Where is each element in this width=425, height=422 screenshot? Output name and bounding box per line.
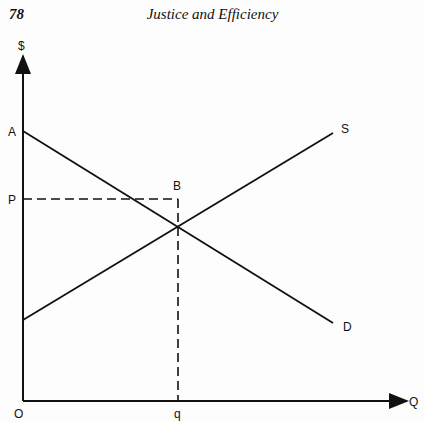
- label-d: D: [343, 320, 352, 334]
- x-axis-label: Q: [409, 395, 418, 409]
- label-s: S: [341, 122, 349, 136]
- label-b: B: [173, 179, 181, 193]
- origin-label: O: [14, 407, 23, 421]
- supply-demand-chart: $ Q O A P B q S D: [0, 0, 425, 422]
- book-page: 78 Justice and Efficiency $ Q O A P B q …: [0, 0, 425, 422]
- y-axis-label: $: [18, 39, 25, 53]
- label-q: q: [174, 407, 181, 421]
- label-a: A: [8, 125, 16, 139]
- label-p: P: [8, 193, 16, 207]
